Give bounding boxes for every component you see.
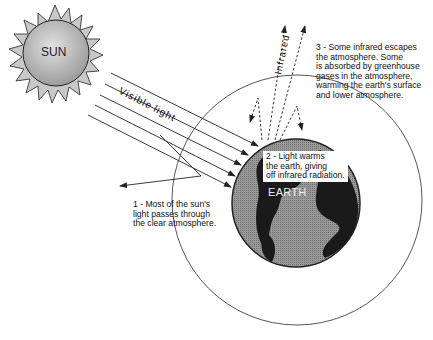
note-1: 1 - Most of the sun's light passes throu… bbox=[133, 200, 216, 229]
reflected-ray bbox=[120, 135, 201, 186]
note-3: 3 - Some infrared escapes the atmosphere… bbox=[316, 43, 421, 101]
visible-light-rays bbox=[88, 73, 258, 187]
note-2: 2 - Light warms the earth, giving off in… bbox=[263, 151, 348, 182]
visible-label: Visible bbox=[117, 85, 154, 111]
infrared-rays bbox=[250, 26, 305, 140]
light-label: light bbox=[152, 103, 178, 123]
infrared-label: Infrared bbox=[272, 33, 291, 75]
earth-label: EARTH bbox=[268, 186, 307, 198]
sun-label: SUN bbox=[41, 45, 66, 59]
